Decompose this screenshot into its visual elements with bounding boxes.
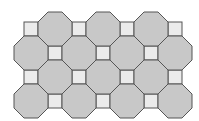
- octagon-tile: [62, 84, 96, 118]
- square-tile: [96, 46, 110, 60]
- square-tile: [168, 22, 182, 36]
- square-tile: [72, 22, 86, 36]
- octagon-tile: [14, 84, 48, 118]
- octagon-tile: [158, 84, 192, 118]
- square-tile: [48, 94, 62, 108]
- square-tile: [120, 70, 134, 84]
- square-tile: [168, 70, 182, 84]
- square-tile: [48, 46, 62, 60]
- square-tile: [144, 94, 158, 108]
- square-tile: [96, 94, 110, 108]
- square-tile: [144, 46, 158, 60]
- square-tile: [120, 22, 134, 36]
- square-tile: [24, 70, 38, 84]
- square-tile: [24, 22, 38, 36]
- octagon-tile: [110, 84, 144, 118]
- octagon-square-tiling: [0, 0, 199, 121]
- square-tile: [72, 70, 86, 84]
